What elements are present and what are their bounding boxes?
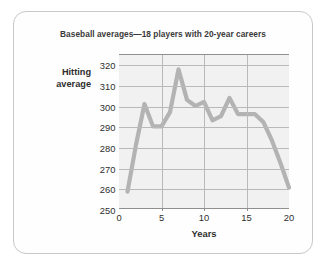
plot-frame: 25026027028029030031032005101520 Years xyxy=(105,50,289,213)
plot-area: 25026027028029030031032005101520 xyxy=(119,54,289,209)
x-tick-label: 0 xyxy=(116,212,121,223)
figure-card: Baseball averages—18 players with 20-yea… xyxy=(13,11,313,254)
x-axis-title: Years xyxy=(119,228,289,239)
hitting-average-line xyxy=(128,69,290,191)
x-tick-mark xyxy=(162,208,163,211)
y-tick-label: 250 xyxy=(100,205,116,216)
y-tick-label: 290 xyxy=(100,122,116,133)
y-tick-label: 260 xyxy=(100,184,116,195)
y-axis-title-line1: Hitting xyxy=(29,67,91,79)
y-axis-title-line2: average xyxy=(29,79,91,91)
x-tick-mark xyxy=(204,208,205,211)
gridline-vertical xyxy=(204,55,205,208)
chart-title: Baseball averages—18 players with 20-yea… xyxy=(14,29,312,39)
y-axis-title: Hitting average xyxy=(29,67,91,90)
y-tick-label: 280 xyxy=(100,143,116,154)
y-tick-label: 300 xyxy=(100,101,116,112)
y-tick-label: 320 xyxy=(100,60,116,71)
x-tick-mark xyxy=(247,208,248,211)
x-tick-label: 15 xyxy=(241,212,251,223)
y-tick-label: 270 xyxy=(100,163,116,174)
gridline-vertical xyxy=(247,55,248,208)
gridline-vertical xyxy=(162,55,163,208)
x-tick-label: 20 xyxy=(284,212,294,223)
x-tick-label: 10 xyxy=(199,212,209,223)
x-tick-label: 5 xyxy=(159,212,164,223)
y-tick-label: 310 xyxy=(100,81,116,92)
